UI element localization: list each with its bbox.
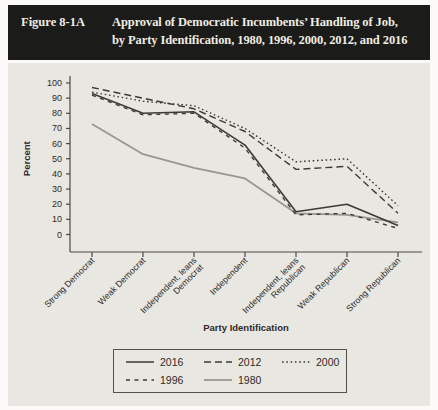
svg-text:60: 60 bbox=[52, 139, 62, 149]
series-1996 bbox=[92, 95, 398, 228]
x-tick-labels: Strong DemocratWeak DemocratIndependent,… bbox=[42, 255, 402, 322]
svg-text:90: 90 bbox=[52, 93, 62, 103]
legend-line-1996 bbox=[126, 375, 154, 385]
figure-page: Figure 8-1A Approval of Democratic Incum… bbox=[0, 0, 438, 410]
series-2016 bbox=[92, 94, 398, 226]
svg-text:Strong Democrat: Strong Democrat bbox=[42, 255, 96, 309]
legend-item-2012: 2012 bbox=[204, 354, 282, 370]
legend-label-1980: 1980 bbox=[238, 374, 261, 386]
y-axis-label: Percent bbox=[21, 140, 32, 176]
legend-line-2012 bbox=[204, 357, 232, 367]
legend-label-1996: 1996 bbox=[160, 374, 183, 386]
x-axis-label: Party Identification bbox=[203, 322, 289, 333]
legend-line-2016 bbox=[126, 357, 154, 367]
svg-text:20: 20 bbox=[52, 199, 62, 209]
svg-text:Weak Democrat: Weak Democrat bbox=[96, 255, 148, 307]
svg-text:Strong Republican: Strong Republican bbox=[344, 255, 402, 313]
legend-line-1980 bbox=[204, 375, 232, 385]
svg-text:Independent, leansDemocrat: Independent, leansDemocrat bbox=[138, 255, 205, 322]
legend-item-1996: 1996 bbox=[126, 372, 204, 388]
y-tick-labels: 1009080706050403020100 bbox=[47, 78, 62, 240]
axes bbox=[66, 76, 422, 257]
svg-text:100: 100 bbox=[47, 78, 62, 88]
svg-text:50: 50 bbox=[52, 154, 62, 164]
svg-text:10: 10 bbox=[52, 214, 62, 224]
chart-panel: 1009080706050403020100PercentStrong Demo… bbox=[8, 63, 430, 406]
legend-line-2000 bbox=[282, 357, 310, 367]
legend-item-1980: 1980 bbox=[204, 372, 282, 388]
svg-text:Independent: Independent bbox=[208, 255, 250, 297]
svg-text:40: 40 bbox=[52, 169, 62, 179]
chart-legend: 20162012200019961980 bbox=[113, 349, 347, 393]
svg-text:70: 70 bbox=[52, 123, 62, 133]
figure-title: Approval of Democratic Incumbents’ Handl… bbox=[112, 14, 407, 52]
legend-label-2012: 2012 bbox=[238, 356, 261, 368]
legend-item-2016: 2016 bbox=[126, 354, 204, 370]
figure-header: Figure 8-1A Approval of Democratic Incum… bbox=[8, 5, 430, 60]
svg-text:Weak Republican: Weak Republican bbox=[296, 255, 352, 311]
svg-text:80: 80 bbox=[52, 108, 62, 118]
legend-item-2000: 2000 bbox=[282, 354, 360, 370]
figure-number: Figure 8-1A bbox=[21, 14, 101, 52]
figure-title-line2: by Party Identification, 1980, 1996, 200… bbox=[112, 32, 407, 50]
svg-text:Independent, leansRepublican: Independent, leansRepublican bbox=[240, 255, 307, 322]
svg-text:30: 30 bbox=[52, 184, 62, 194]
legend-label-2016: 2016 bbox=[160, 356, 183, 368]
series-1980 bbox=[92, 124, 398, 222]
series-2000 bbox=[92, 92, 398, 206]
svg-text:0: 0 bbox=[57, 230, 62, 240]
figure-title-line1: Approval of Democratic Incumbents’ Handl… bbox=[112, 14, 407, 32]
legend-label-2000: 2000 bbox=[316, 356, 339, 368]
